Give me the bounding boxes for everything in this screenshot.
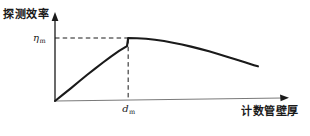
x-axis [55, 95, 289, 102]
y-tick-label-eta-m: ηm [33, 33, 45, 43]
y-axis-arrowhead [52, 12, 59, 21]
detection-efficiency-curve [55, 38, 258, 101]
x-axis-arrowhead [280, 95, 289, 102]
x-axis-title: 计数管壁厚 [241, 106, 299, 117]
d-symbol: d [122, 103, 128, 114]
d-subscript: m [129, 108, 135, 116]
detection-efficiency-figure: 探测效率 计数管壁厚 ηm dm [0, 0, 310, 136]
x-axis-line [55, 98, 283, 101]
eta-symbol: η [33, 32, 39, 43]
y-axis-title: 探测效率 [3, 9, 49, 20]
y-axis [52, 12, 59, 101]
eta-subscript: m [40, 37, 46, 45]
x-tick-label-d-m: dm [122, 104, 135, 114]
